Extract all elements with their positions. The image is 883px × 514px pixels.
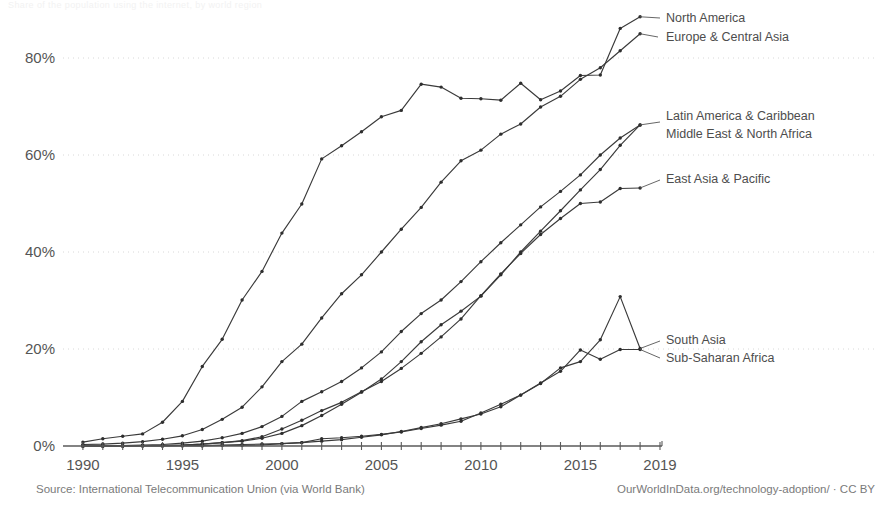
series-sub-saharan-africa xyxy=(81,348,642,448)
axis-group xyxy=(63,441,662,450)
series-north-america xyxy=(81,15,642,444)
series-east-asia-pacific xyxy=(81,186,642,447)
y-tick-0: 0% xyxy=(33,437,55,454)
x-tick-2015: 2015 xyxy=(564,456,597,473)
x-axis-tick-labels: 1990199520002005201020152019 xyxy=(66,456,676,473)
label-latin-america-caribbean: Latin America & Caribbean xyxy=(666,109,815,123)
label-middle-east-north-africa: Middle East & North Africa xyxy=(666,127,812,141)
y-tick-60: 60% xyxy=(25,146,55,163)
y-axis-tick-labels: 0%20%40%60%80% xyxy=(25,49,55,454)
label-europe-central-asia: Europe & Central Asia xyxy=(666,30,789,44)
annotation-leader-lines xyxy=(640,17,660,358)
series-annotations: North AmericaEurope & Central AsiaLatin … xyxy=(666,11,815,365)
series-group xyxy=(81,15,642,448)
series-south-asia xyxy=(81,295,642,448)
series-middle-east-north-africa xyxy=(81,123,642,447)
x-tick-2005: 2005 xyxy=(365,456,398,473)
label-south-asia: South Asia xyxy=(666,333,726,347)
label-north-america: North America xyxy=(666,11,745,25)
line-chart: 0%20%40%60%80% 1990199520002005201020152… xyxy=(0,0,883,514)
series-europe-central-asia xyxy=(81,32,642,446)
label-sub-saharan-africa: Sub-Saharan Africa xyxy=(666,351,774,365)
x-tick-1995: 1995 xyxy=(166,456,199,473)
y-tick-40: 40% xyxy=(25,243,55,260)
y-tick-20: 20% xyxy=(25,340,55,357)
x-tick-2010: 2010 xyxy=(464,456,497,473)
footer-source: Source: International Telecommunication … xyxy=(36,483,365,495)
y-tick-80: 80% xyxy=(25,49,55,66)
x-tick-2000: 2000 xyxy=(265,456,298,473)
label-east-asia-pacific: East Asia & Pacific xyxy=(666,172,770,186)
series-latin-america-caribbean xyxy=(81,123,642,447)
x-tick-1990: 1990 xyxy=(66,456,99,473)
footer-credit-link[interactable]: OurWorldInData.org/technology-adoption/ … xyxy=(617,483,875,495)
x-tick-2019: 2019 xyxy=(643,456,676,473)
chart-container: Share of the population using the intern… xyxy=(0,0,883,514)
